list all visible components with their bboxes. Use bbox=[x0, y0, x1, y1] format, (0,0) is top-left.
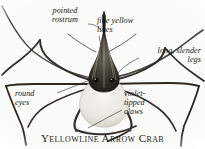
callout-label-round-eyes: round eyes bbox=[15, 89, 55, 107]
callout-label-fine-yellow-lines: fine yellow lines bbox=[97, 16, 151, 34]
callout-label-violet-tipped-claws: violet- tipped claws bbox=[124, 89, 168, 117]
figure-caption: Yellowline Arrow Crab bbox=[0, 132, 205, 144]
callout-label-long-slender-legs: long, slender legs bbox=[138, 46, 201, 64]
figure-panel: pointed rostrum fine yellow lines long, … bbox=[0, 0, 205, 149]
callout-label-pointed-rostrum: pointed rostrum bbox=[41, 6, 89, 24]
